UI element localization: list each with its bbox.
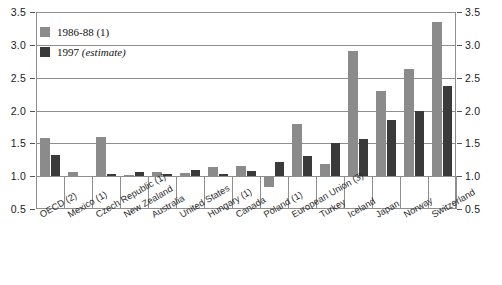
- y-tick-label-right: 1.5: [465, 138, 480, 149]
- bar: [443, 86, 453, 177]
- bar: [40, 138, 50, 176]
- y-tick-mark: [457, 209, 462, 210]
- x-axis-category-labels: OECD (2)Mexico (1)Czech Republic (1)New …: [0, 209, 502, 285]
- y-tick-mark: [30, 111, 35, 112]
- bar: [348, 51, 358, 176]
- bar: [331, 143, 341, 176]
- bar: [275, 162, 285, 176]
- bar: [432, 22, 442, 176]
- y-tick-mark: [30, 78, 35, 79]
- y-tick-mark: [30, 12, 35, 13]
- y-tick-mark: [457, 176, 462, 177]
- y-tick-label-left: 1.0: [0, 171, 26, 182]
- y-tick-mark: [457, 143, 462, 144]
- y-tick-label-right: 3.5: [465, 7, 480, 18]
- y-tick-label-right: 2.5: [465, 73, 480, 84]
- bar: [376, 91, 386, 176]
- bar: [51, 155, 61, 176]
- bar: [303, 156, 313, 176]
- y-tick-label-left: 3.0: [0, 40, 26, 51]
- y-tick-mark: [457, 12, 462, 13]
- bar: [292, 124, 302, 177]
- y-tick-mark: [30, 143, 35, 144]
- y-tick-mark: [457, 45, 462, 46]
- bar: [415, 111, 425, 177]
- bar: [208, 167, 218, 176]
- bar: [96, 137, 106, 176]
- y-tick-mark: [30, 209, 35, 210]
- bar: [387, 120, 397, 176]
- y-tick-mark: [30, 176, 35, 177]
- bar: [320, 164, 330, 176]
- y-tick-label-left: 2.0: [0, 106, 26, 117]
- bar: [404, 69, 414, 176]
- y-tick-mark: [457, 78, 462, 79]
- chart-root: 1986-88 (1) 1997 (estimate) 0.51.01.52.0…: [0, 0, 502, 285]
- category-separator: [400, 176, 401, 209]
- y-tick-label-right: 3.0: [465, 40, 480, 51]
- y-tick-mark: [30, 45, 35, 46]
- y-tick-label-right: 1.0: [465, 171, 480, 182]
- y-tick-mark: [457, 111, 462, 112]
- y-tick-label-left: 2.5: [0, 73, 26, 84]
- y-tick-label-right: 2.0: [465, 106, 480, 117]
- bar: [236, 166, 246, 176]
- y-tick-label-left: 3.5: [0, 7, 26, 18]
- y-tick-label-left: 1.5: [0, 138, 26, 149]
